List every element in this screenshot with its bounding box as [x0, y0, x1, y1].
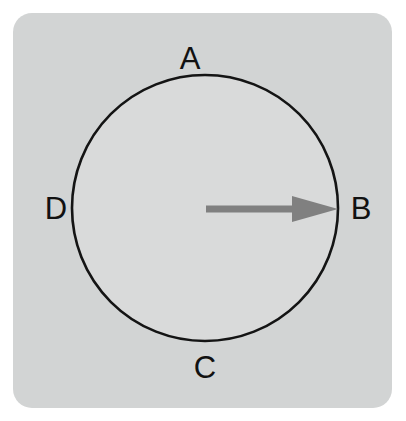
arrow-shaft: [206, 206, 294, 213]
vertex-label-d: D: [45, 193, 67, 224]
vertex-label-a: A: [180, 43, 201, 74]
figure-root: A B C D: [0, 0, 406, 421]
vertex-label-c: C: [194, 352, 216, 383]
vertex-label-b: B: [351, 193, 372, 224]
